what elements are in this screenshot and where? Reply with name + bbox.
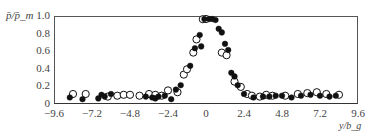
x-tick-label: 0 (191, 108, 221, 119)
filled-circle-marker (213, 17, 219, 23)
filled-circle-marker (143, 94, 149, 100)
filled-circle-marker (317, 93, 323, 99)
filled-circle-marker (289, 95, 295, 101)
x-tick-label: −9.6 (39, 108, 69, 119)
scatter-chart: p̄/p̄_m 1.0 0.8 0.6 0.4 0.2 0 −9.6 −7.2 … (0, 0, 375, 139)
open-circle-marker (126, 91, 133, 98)
filled-circle-marker (173, 87, 179, 93)
filled-circle-marker (108, 91, 114, 97)
filled-circle-marker (192, 45, 198, 51)
open-circle-marker (136, 92, 143, 99)
x-tick-label: 4.8 (267, 108, 297, 119)
filled-circle-marker (225, 47, 231, 53)
filled-circle-marker (219, 30, 225, 36)
filled-circle-marker (102, 94, 108, 100)
filled-circle-marker (197, 32, 203, 38)
filled-circle-marker (80, 96, 86, 102)
filled-circle-marker (251, 95, 257, 101)
filled-circle-marker (273, 93, 279, 99)
x-axis-label: y/b_g (339, 120, 361, 131)
filled-circle-marker (156, 94, 162, 100)
filled-circle-marker (232, 74, 238, 80)
x-tick-label: 2.4 (229, 108, 259, 119)
filled-circle-marker (298, 93, 304, 99)
x-tick-label: −2.4 (153, 108, 183, 119)
filled-circle-marker (308, 92, 314, 98)
filled-circle-marker (327, 94, 333, 100)
filled-circle-marker (187, 63, 193, 69)
x-tick-label: 9.6 (343, 108, 373, 119)
filled-circle-marker (235, 82, 241, 88)
filled-circle-marker (260, 94, 266, 100)
filled-circle-marker (162, 93, 168, 99)
filled-circle-marker (67, 95, 73, 101)
filled-circle-marker (241, 91, 247, 97)
filled-circle-marker (267, 94, 273, 100)
filled-circle-marker (222, 41, 228, 47)
filled-circle-marker (333, 93, 339, 99)
filled-circle-marker (198, 44, 204, 50)
x-tick-label: 7.2 (305, 108, 335, 119)
x-tick-label: −4.8 (115, 108, 145, 119)
filled-circle-marker (279, 93, 285, 99)
filled-circle-marker (178, 82, 184, 88)
x-tick-label: −7.2 (77, 108, 107, 119)
filled-circle-marker (168, 96, 174, 102)
